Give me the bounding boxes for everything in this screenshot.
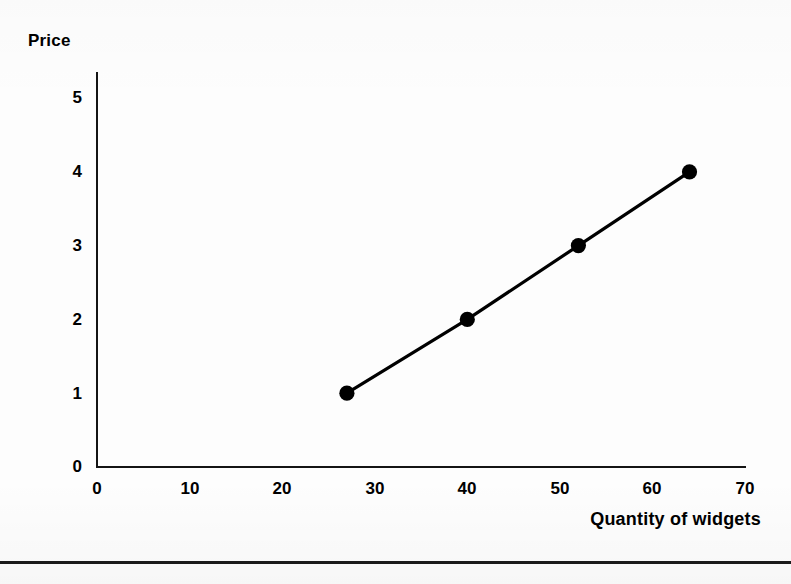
y-tick-label-1: 1 xyxy=(56,384,82,404)
data-point-marker xyxy=(571,238,586,253)
x-tick-label-40: 40 xyxy=(447,479,487,499)
x-tick-label-50: 50 xyxy=(540,479,580,499)
data-point-marker xyxy=(682,164,697,179)
series-line-supply xyxy=(347,172,690,393)
y-axis-line xyxy=(96,72,98,468)
x-tick-label-0: 0 xyxy=(77,479,117,499)
series-markers-supply xyxy=(339,164,697,401)
series-supply xyxy=(0,0,791,584)
y-axis-title: Price xyxy=(28,31,71,51)
data-point-marker xyxy=(460,312,475,327)
x-tick-label-60: 60 xyxy=(632,479,672,499)
x-tick-label-30: 30 xyxy=(355,479,395,499)
y-tick-label-4: 4 xyxy=(56,162,82,182)
y-tick-label-0: 0 xyxy=(56,457,82,477)
page-bottom-rule xyxy=(0,561,791,564)
y-tick-label-3: 3 xyxy=(56,236,82,256)
x-tick-label-10: 10 xyxy=(170,479,210,499)
y-tick-label-5: 5 xyxy=(56,88,82,108)
y-tick-label-2: 2 xyxy=(56,310,82,330)
line-chart-figure: Price 5 4 3 2 1 0 0 10 20 30 40 50 60 70… xyxy=(0,0,791,584)
data-point-marker xyxy=(339,386,354,401)
x-tick-label-70: 70 xyxy=(725,479,765,499)
plot-area xyxy=(0,0,791,584)
x-tick-label-20: 20 xyxy=(262,479,302,499)
x-axis-line xyxy=(96,466,746,468)
x-axis-title: Quantity of widgets xyxy=(0,509,761,530)
page-root: Price 5 4 3 2 1 0 0 10 20 30 40 50 60 70… xyxy=(0,0,791,584)
